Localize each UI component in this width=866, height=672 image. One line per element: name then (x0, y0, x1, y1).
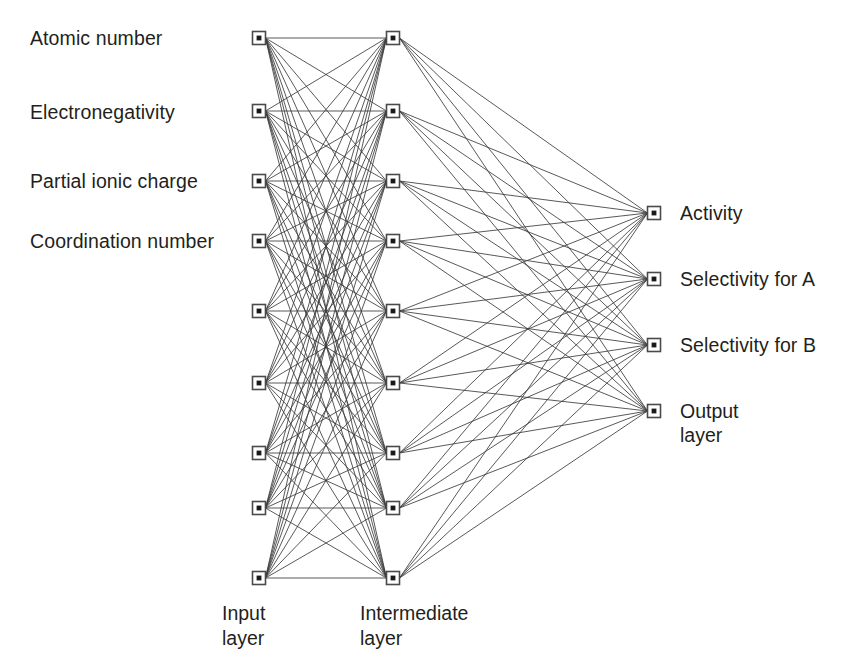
input-label-electronegativity: Electronegativity (30, 101, 175, 123)
output-node-core-2 (652, 277, 657, 282)
connection-line (400, 279, 648, 508)
connection-line (400, 213, 648, 383)
input-layer-caption-line2: layer (222, 627, 265, 649)
connection-line (400, 181, 648, 279)
connection-line (400, 38, 648, 213)
connection-line (400, 311, 648, 345)
intermediate-layer-nodes (387, 32, 400, 585)
connection-line (400, 241, 648, 279)
input-label-coordination-number: Coordination number (30, 230, 214, 252)
output-label-selectivity-for-a: Selectivity for A (680, 268, 815, 290)
output-layer-caption-line1: Output (680, 400, 739, 422)
intermediate-node-core-9 (391, 576, 396, 581)
output-node-core-3 (652, 343, 657, 348)
connection-line (400, 279, 648, 578)
connection-line (400, 111, 648, 213)
output-layer-caption-line2: layer (680, 424, 723, 446)
intermediate-layer-caption-line1: Intermediate (360, 602, 468, 624)
input-node-core-8 (257, 506, 262, 511)
connection-line (400, 411, 648, 578)
connection-line (400, 38, 648, 411)
connection-line (400, 213, 648, 578)
intermediate-node-core-5 (391, 309, 396, 314)
connection-line (400, 181, 648, 345)
input-node-core-6 (257, 381, 262, 386)
neural-network-diagram: Atomic number Electronegativity Partial … (0, 0, 866, 672)
input-node-core-1 (257, 36, 262, 41)
output-layer-nodes (648, 207, 661, 418)
connection-line (400, 345, 648, 383)
connection-line (400, 213, 648, 241)
output-label-selectivity-for-b: Selectivity for B (680, 334, 816, 356)
edges-intermediate-to-output (400, 38, 648, 578)
connection-line (400, 383, 648, 411)
output-node-core-1 (652, 211, 657, 216)
intermediate-node-core-1 (391, 36, 396, 41)
intermediate-layer-caption-line2: layer (360, 627, 403, 649)
intermediate-node-core-6 (391, 381, 396, 386)
connection-line (400, 345, 648, 578)
input-node-core-2 (257, 109, 262, 114)
output-label-activity: Activity (680, 202, 743, 224)
input-node-core-9 (257, 576, 262, 581)
edges-input-to-intermediate (266, 38, 387, 578)
input-node-core-5 (257, 309, 262, 314)
input-node-core-4 (257, 239, 262, 244)
input-layer-nodes (253, 32, 266, 585)
input-label-partial-ionic-charge: Partial ionic charge (30, 170, 198, 192)
intermediate-node-core-3 (391, 179, 396, 184)
connection-line (400, 38, 648, 345)
input-label-atomic-number: Atomic number (30, 27, 163, 49)
output-node-core-4 (652, 409, 657, 414)
intermediate-node-core-7 (391, 451, 396, 456)
connection-line (400, 111, 648, 279)
connection-line (400, 213, 648, 508)
intermediate-node-core-2 (391, 109, 396, 114)
connection-line (400, 38, 648, 279)
connection-line (400, 181, 648, 213)
input-layer-caption-line1: Input (222, 602, 266, 624)
intermediate-node-core-4 (391, 239, 396, 244)
input-node-core-3 (257, 179, 262, 184)
input-node-core-7 (257, 451, 262, 456)
connection-line (400, 411, 648, 508)
network-graphic: Atomic number Electronegativity Partial … (0, 0, 866, 672)
intermediate-node-core-8 (391, 506, 396, 511)
